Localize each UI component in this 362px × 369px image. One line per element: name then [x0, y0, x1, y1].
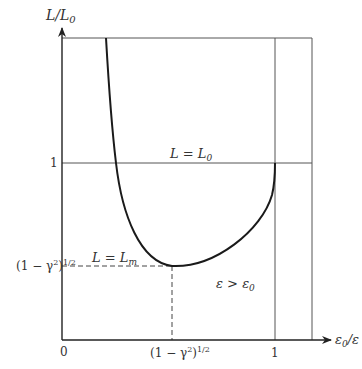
diagram-canvas: L/L0 ε0/ε 0 1 1 (1 − γ2)1/2 (1 − γ2)1/2 …: [0, 0, 362, 369]
x-min-tick-label: (1 − γ2)1/2: [150, 345, 210, 360]
y-tick-one: 1: [50, 156, 58, 170]
y-min-tick-label: (1 − γ2)1/2: [16, 258, 76, 273]
L-equals-L0-label: L = L0: [169, 146, 212, 163]
y-axis-label: L/L0: [45, 7, 76, 25]
x-tick-one: 1: [271, 346, 279, 360]
L-equals-Lm-label: L = Lm: [91, 250, 137, 267]
region-label: ε > ε0: [216, 276, 255, 293]
x-axis-label: ε0/ε: [335, 332, 359, 349]
origin-label: 0: [60, 345, 68, 359]
